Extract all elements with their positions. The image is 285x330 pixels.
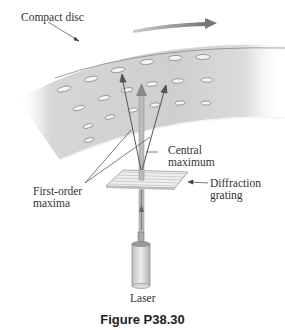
label-diffraction-grating: Diffraction grating [210,177,261,201]
laser [132,232,150,289]
label-compact-disc: Compact disc [21,11,84,23]
label-first-order-maxima: First-order maxima [33,185,82,209]
figure-caption: Figure P38.30 [0,312,285,327]
diffraction-diagram [0,0,285,330]
label-laser: Laser [130,292,156,304]
rotation-arrow-icon [133,18,217,33]
diffraction-grating [106,170,188,190]
label-central-maximum: Central maximum [168,144,215,168]
